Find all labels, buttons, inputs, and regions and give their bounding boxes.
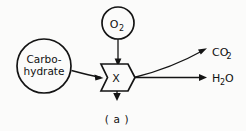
node-carbohydrate[interactable]: Carbo- hydrate: [17, 39, 71, 93]
edge-process-to-carbon-dioxide: [134, 48, 207, 77]
edge-oxygen-to-process: [115, 39, 122, 67]
water-suffix: O: [225, 72, 234, 85]
carbon-dioxide-flow-line: [134, 51, 203, 78]
carbon-dioxide-subscript: 2: [227, 52, 232, 61]
oxygen-label: O: [110, 18, 119, 31]
process-label: X: [112, 72, 120, 85]
energy-arrow-head: [113, 93, 121, 101]
output-label-carbon-dioxide: CO 2: [212, 46, 232, 61]
water-arrow-head: [199, 74, 207, 81]
figure-caption: ( a ): [105, 113, 129, 125]
carbohydrate-label-line1: Carbo-: [26, 53, 61, 65]
diagram-canvas: Carbo- hydrate O 2 X CO 2 H 2 O ( a ): [0, 0, 246, 131]
reaction-diagram-figure: Carbo- hydrate O 2 X CO 2 H 2 O ( a ): [0, 0, 246, 131]
oxygen-subscript: 2: [119, 24, 124, 33]
carbohydrate-label-line2: hydrate: [24, 65, 65, 77]
carbohydrate-arrow-head: [95, 75, 104, 81]
carbon-dioxide-arrow-head: [198, 48, 207, 54]
node-oxygen[interactable]: O 2: [102, 7, 134, 39]
output-label-water: H 2 O: [212, 72, 234, 87]
edge-carbohydrate-to-process: [72, 71, 104, 81]
node-process[interactable]: X: [101, 64, 135, 91]
